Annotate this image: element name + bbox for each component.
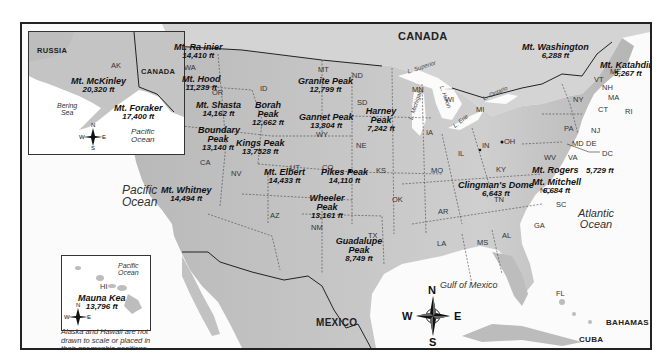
peak-mt-mckinley: Mt. McKinley 20,320 ft xyxy=(71,77,126,94)
canada-inset-label: CANADA xyxy=(141,68,175,76)
state-label-oh: OH xyxy=(504,138,515,146)
state-label-mt: MT xyxy=(318,66,329,74)
peak-mt-hood: Mt. Hood11,239 ft xyxy=(182,75,221,92)
alaska-inset: RUSSIA AK CANADA Mt. McKinley 20,320 ft … xyxy=(28,31,185,155)
peak-boundary: Boundary Peak13,140 ft xyxy=(198,126,238,152)
peak-wheeler: Wheeler Peak13,161 ft xyxy=(308,194,346,220)
state-label-mn: MN xyxy=(412,86,424,94)
state-label-ar: AR xyxy=(438,208,448,216)
peak-gannet: Gannet Peak13,804 ft xyxy=(299,113,354,130)
state-label-ne: NE xyxy=(356,142,366,150)
peak-mt-shasta: Mt. Shasta14,162 ft xyxy=(196,101,241,118)
state-label-ia: IA xyxy=(426,129,433,137)
state-label-ri: RI xyxy=(625,108,633,116)
state-label-ca: CA xyxy=(200,159,210,167)
state-label-ny: NY xyxy=(573,96,583,104)
peak-mt-rainier: Mt. Ra inier14,410 ft xyxy=(174,43,223,60)
state-label-ms: MS xyxy=(477,239,488,247)
peak-mt-elbert: Mt. Elbert14,433 ft xyxy=(264,168,305,185)
russia-label: RUSSIA xyxy=(37,47,67,55)
hawaii-compass-icon: N W E xyxy=(66,304,90,330)
state-label-mo: MO xyxy=(431,167,443,175)
state-label-ga: GA xyxy=(534,222,545,230)
state-label-ma: MA xyxy=(608,94,619,102)
bering-sea-label: Bering Sea xyxy=(57,102,77,116)
state-label-ok: OK xyxy=(392,196,403,204)
peak-kings: Kings Peak13,7528 ft xyxy=(236,139,285,156)
peak-guadalupe: Guadalupe Peak8,749 ft xyxy=(334,237,384,263)
bahamas-label: BAHAMAS xyxy=(606,319,649,327)
atlantic-ocean-label: Atlantic Ocean xyxy=(578,208,614,230)
state-label-ct: CT xyxy=(598,106,608,114)
state-label-ky: KY xyxy=(496,166,506,174)
state-label-nd: ND xyxy=(352,72,363,80)
peak-mt-rogers: Mt. Rogers xyxy=(532,166,579,175)
state-label-wa: WA xyxy=(184,64,196,72)
state-label-il: IL xyxy=(458,150,464,158)
state-label-pa: PA xyxy=(564,125,573,133)
state-label-hi: HI xyxy=(100,283,108,291)
compass-rose-icon: N W E S xyxy=(408,286,458,346)
pacific-ocean-inset-label: Pacific Ocean xyxy=(131,128,155,144)
peak-mt-katahdin: Mt. Katahdin5,267 ft xyxy=(600,61,652,78)
hawaii-inset: Pacific Ocean HI Mauna Kea 13,796 ft N W… xyxy=(61,255,151,331)
state-label-nj: NJ xyxy=(591,127,600,135)
peak-borah: Borah Peak12,662 ft xyxy=(252,101,284,127)
peak-mt-foraker: Mt. Foraker 17,400 ft xyxy=(114,104,163,121)
state-label-nm: NM xyxy=(311,224,323,232)
peak-mt-washington: Mt. Washington6,288 ft xyxy=(522,43,589,60)
state-label-az: AZ xyxy=(270,212,280,220)
peak-mt-mitchell: Mt. Mitchell6,684 ft xyxy=(532,178,581,195)
state-label-fl: FL xyxy=(556,290,565,298)
state-label-wi: WI xyxy=(445,96,454,104)
state-label-wy: WY xyxy=(316,131,328,139)
pacific-ocean-hawaii-label: Pacific Ocean xyxy=(118,262,139,276)
state-label-mi: MI xyxy=(476,106,484,114)
pacific-ocean-label: Pacific Ocean xyxy=(122,184,157,208)
state-label-sc: SC xyxy=(556,201,566,209)
peak-granite: Granite Peak12,799 ft xyxy=(298,77,353,94)
map-frame: RUSSIA AK CANADA Mt. McKinley 20,320 ft … xyxy=(20,22,652,350)
state-label-nh: NH xyxy=(602,84,613,92)
scale-note: Alaska and Hawaii are not drawn to scale… xyxy=(61,328,150,350)
alaska-compass-icon: N W E S xyxy=(81,124,105,150)
state-label-nv: NV xyxy=(231,170,241,178)
dc-leader-line xyxy=(567,142,607,156)
state-label-ks: KS xyxy=(376,167,386,175)
mexico-label: MEXICO xyxy=(316,318,357,328)
peak-mt-rogers-height: 5,729 ft xyxy=(586,167,614,175)
state-label-id: ID xyxy=(260,85,268,93)
cuba-label: CUBA xyxy=(579,336,603,344)
state-label-wv: WV xyxy=(544,154,556,162)
peak-pikes: Pikes Peak14,110 ft xyxy=(321,168,368,185)
state-label-ak: AK xyxy=(111,62,121,70)
peak-mt-whitney: Mt. Whitney14,494 ft xyxy=(161,186,212,203)
peak-clingmans-dome: Clingman's Dome6,643 ft xyxy=(458,181,534,198)
peak-harney: Harney Peak7,242 ft xyxy=(364,107,398,133)
canada-label: CANADA xyxy=(398,31,447,42)
state-label-la: LA xyxy=(437,240,446,248)
state-label-in: IN xyxy=(482,142,490,150)
state-label-al: AL xyxy=(502,232,511,240)
